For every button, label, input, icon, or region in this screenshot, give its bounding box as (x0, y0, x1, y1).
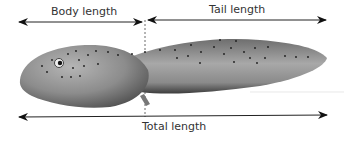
total-length-arrow (19, 115, 327, 117)
tadpole-pupil (58, 61, 62, 65)
tadpole-tail (128, 39, 327, 94)
tadpole-leg (140, 94, 150, 106)
total-length-label: Total length (142, 120, 206, 133)
body-length-label: Body length (51, 5, 117, 18)
tadpole-body (20, 45, 149, 108)
tail-length-label: Tail length (209, 3, 265, 16)
